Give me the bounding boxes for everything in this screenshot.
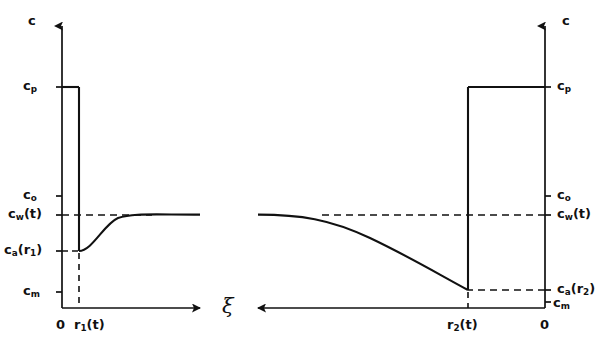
left-tick-label-cw-base: c xyxy=(8,206,16,221)
left-panel-axes xyxy=(56,26,200,308)
left-origin-label: 0 xyxy=(56,318,65,331)
right-tick-label-cp-base: c xyxy=(557,78,565,93)
left-tick-label-ca-base: c xyxy=(4,242,12,257)
right-panel-curve xyxy=(258,87,545,290)
left-tick-label-ca-suffix: (r xyxy=(18,242,30,257)
left-tick-label-co-sub: o xyxy=(31,193,37,203)
right-panel-axes xyxy=(258,26,551,308)
xi-coordinate-label: ξ xyxy=(222,296,234,317)
concentration-profile-figure: c cp co cw(t) ca(r1) cm 0 r1(t) ξ c cp c… xyxy=(0,0,607,352)
right-tick-label-co: co xyxy=(557,188,571,203)
right-x-tick-label-r2: r2(t) xyxy=(447,318,478,333)
left-tick-label-cm-sub: m xyxy=(31,289,40,299)
right-panel-guides xyxy=(320,215,545,308)
left-tick-label-co: co xyxy=(23,188,37,203)
right-tick-label-cw-sub: w xyxy=(565,212,573,222)
right-tick-label-cm-base: c xyxy=(553,295,561,310)
right-tick-label-cw-base: c xyxy=(557,206,565,221)
left-tick-label-ca-suffix2: ) xyxy=(36,242,42,257)
right-tick-label-co-sub: o xyxy=(565,193,571,203)
right-tick-label-cw: cw(t) xyxy=(557,207,591,222)
left-tick-label-cp: cp xyxy=(23,79,37,94)
left-panel-guides xyxy=(62,215,152,308)
figure-canvas xyxy=(0,0,607,352)
right-y-axis-label: c xyxy=(562,14,570,27)
right-tick-label-cw-suffix: (t) xyxy=(573,206,591,221)
left-recovery-curve xyxy=(79,214,200,251)
left-tick-label-cm: cm xyxy=(23,284,40,299)
left-tick-label-cw: cw(t) xyxy=(8,207,42,222)
left-tick-label-cm-base: c xyxy=(23,283,31,298)
right-tick-label-co-base: c xyxy=(557,187,565,202)
right-tick-label-ca-suffix2: ) xyxy=(589,281,595,296)
right-decay-curve xyxy=(258,215,468,290)
left-tick-label-cp-sub: p xyxy=(31,84,37,94)
right-tick-label-ca-base: c xyxy=(557,281,565,296)
right-x-tick-label-r2-suffix: (t) xyxy=(460,317,478,332)
left-panel-curve xyxy=(62,87,200,251)
right-origin-label: 0 xyxy=(540,318,549,331)
right-tick-label-cp: cp xyxy=(557,79,571,94)
left-tick-label-ca: ca(r1) xyxy=(4,243,42,258)
left-tick-label-cw-sub: w xyxy=(16,212,24,222)
left-x-tick-label-r1: r1(t) xyxy=(74,318,105,333)
left-tick-label-cp-base: c xyxy=(23,78,31,93)
right-tick-label-cp-sub: p xyxy=(565,84,571,94)
right-tick-label-ca-suffix: (r xyxy=(571,281,583,296)
right-tick-label-cm: cm xyxy=(553,296,570,311)
right-tick-label-cm-sub: m xyxy=(561,301,570,311)
left-tick-label-co-base: c xyxy=(23,187,31,202)
left-tick-label-cw-suffix: (t) xyxy=(24,206,42,221)
left-x-tick-label-r1-suffix: (t) xyxy=(87,317,105,332)
left-y-axis-label: c xyxy=(28,14,36,27)
